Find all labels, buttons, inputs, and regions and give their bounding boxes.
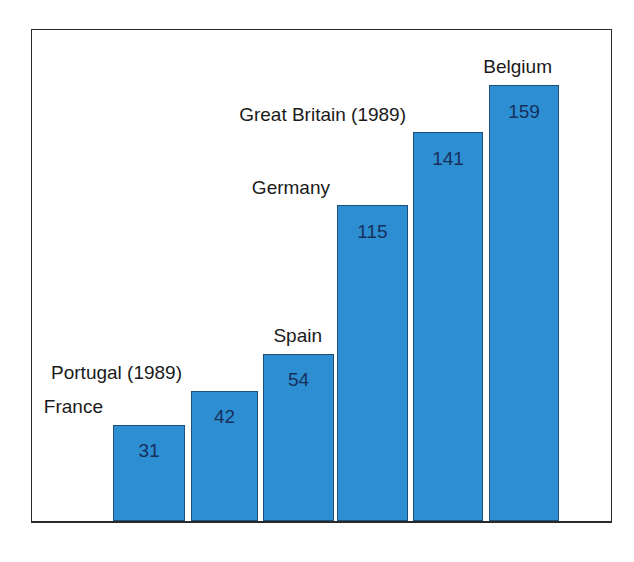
plot-area: 31 France 42 Portugal (1989) 54 Spain 11… (32, 30, 611, 522)
plot-frame: 31 France 42 Portugal (1989) 54 Spain 11… (31, 29, 612, 523)
bar-value-great-britain: 141 (413, 148, 483, 170)
bar-label-germany: Germany (188, 177, 330, 199)
bar-label-france: France (0, 396, 103, 418)
bar-label-portugal: Portugal (1989) (0, 362, 182, 384)
bar-chart: 31 France 42 Portugal (1989) 54 Spain 11… (0, 0, 634, 562)
bar-germany (337, 205, 408, 521)
bar-belgium (489, 85, 559, 521)
bar-value-portugal: 42 (191, 406, 258, 428)
bar-value-spain: 54 (263, 369, 334, 391)
bar-value-france: 31 (113, 440, 185, 462)
bar-value-belgium: 159 (489, 101, 559, 123)
axis-baseline (31, 521, 612, 523)
bar-value-germany: 115 (337, 221, 408, 243)
bar-label-spain: Spain (174, 325, 322, 347)
bar-label-belgium: Belgium (399, 56, 552, 78)
bar-label-great-britain: Great Britain (1989) (179, 104, 406, 126)
bar-great-britain (413, 132, 483, 521)
